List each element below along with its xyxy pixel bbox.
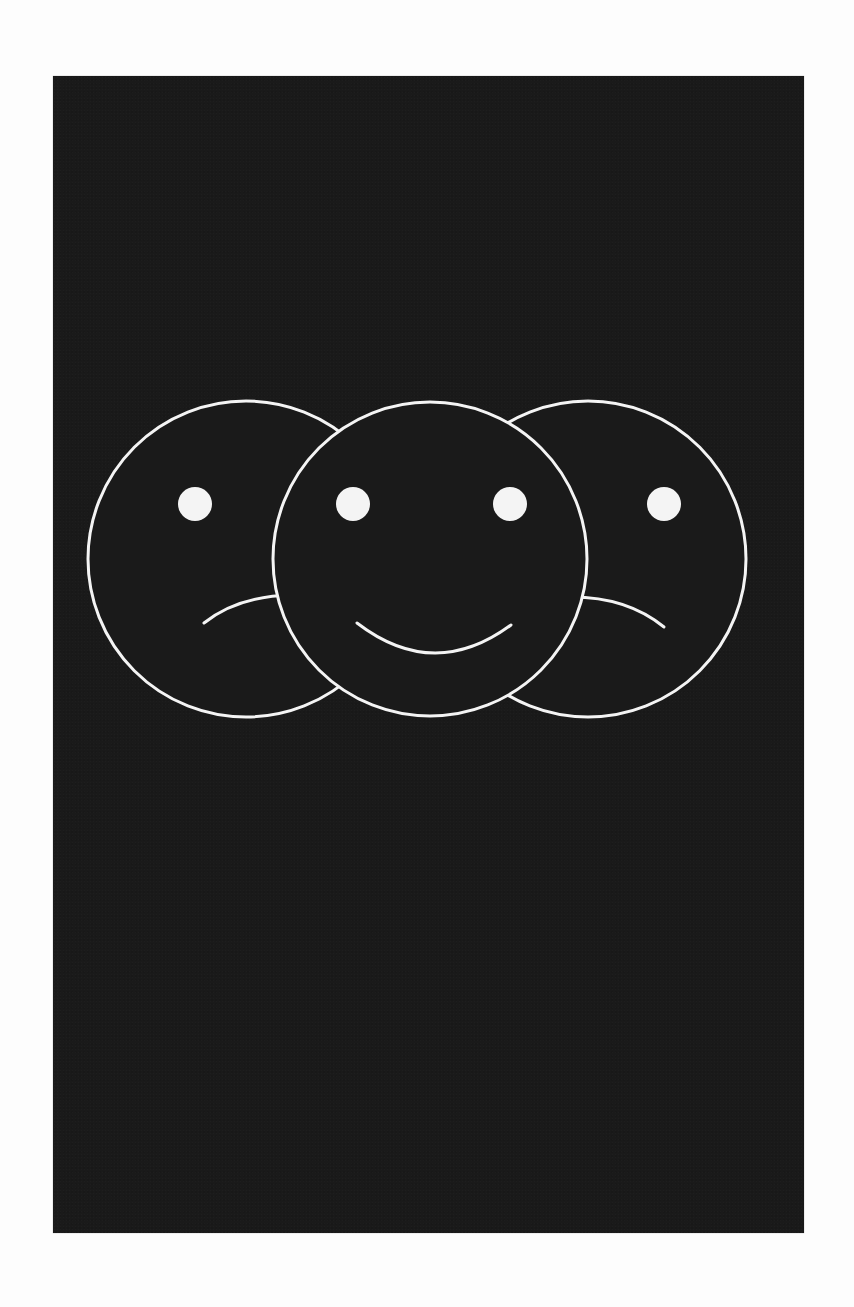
left-face-eye-icon — [178, 487, 212, 521]
three-faces-illustration — [0, 0, 854, 1307]
center-face-right-eye-icon — [493, 487, 527, 521]
right-face-eye-icon — [647, 487, 681, 521]
center-happy-face — [273, 402, 587, 716]
center-face-left-eye-icon — [336, 487, 370, 521]
center-face-outline — [273, 402, 587, 716]
